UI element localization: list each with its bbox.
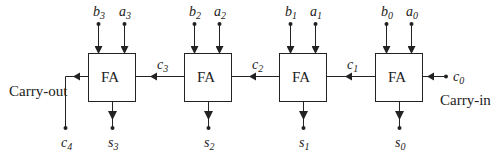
- diagram-wires: [0, 0, 504, 159]
- ripple-carry-adder-diagram: FA FA FA FA b3 a3 b2 a2 b1 a1 b0 a0 s3 s…: [0, 0, 504, 159]
- fa-label-2: FA: [197, 70, 215, 85]
- sum-label-s3: s3: [108, 136, 118, 152]
- input-label-b0: b0: [381, 5, 393, 21]
- fa-label-0: FA: [388, 70, 406, 85]
- input-label-a0: a0: [406, 5, 418, 21]
- carry-label-c2: c2: [252, 58, 263, 74]
- fa-label-1: FA: [292, 70, 310, 85]
- carry-label-c3: c3: [157, 58, 168, 74]
- sum-label-s1: s1: [299, 136, 309, 152]
- carry-label-c0: c0: [453, 70, 464, 86]
- fa-label-3: FA: [101, 70, 119, 85]
- carry-in-label: Carry-in: [440, 93, 491, 108]
- sum-label-s0: s0: [395, 136, 405, 152]
- input-label-b1: b1: [285, 5, 297, 21]
- carry-out-label: Carry-out: [9, 84, 67, 99]
- sum-label-s2: s2: [204, 136, 214, 152]
- carry-label-c1: c1: [347, 58, 358, 74]
- carry-label-c4: c4: [61, 136, 72, 152]
- input-label-b2: b2: [189, 5, 201, 21]
- input-label-a1: a1: [310, 5, 322, 21]
- input-label-a2: a2: [214, 5, 226, 21]
- input-label-a3: a3: [119, 5, 131, 21]
- input-label-b3: b3: [93, 5, 105, 21]
